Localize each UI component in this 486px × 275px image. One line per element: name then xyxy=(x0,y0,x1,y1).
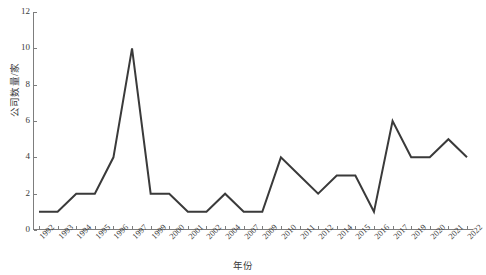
y-tick-label: 0 xyxy=(26,224,31,235)
y-tick-label: 12 xyxy=(21,6,30,17)
y-tick-label: 8 xyxy=(26,79,31,90)
y-tick-label: 6 xyxy=(26,115,31,126)
line-series-svg xyxy=(33,12,473,230)
x-axis-title: 年份 xyxy=(0,258,486,272)
y-tick-mark xyxy=(34,230,37,231)
y-tick-label: 4 xyxy=(26,151,31,162)
plot-area: 024681012 199219931994199519961997199920… xyxy=(33,12,473,230)
series-line-公司数量 xyxy=(39,48,467,212)
y-tick-label: 10 xyxy=(21,42,30,53)
chart-figure: 公司数量/家 024681012 19921993199419951996199… xyxy=(0,0,486,275)
y-tick-label: 2 xyxy=(26,188,31,199)
y-axis-title: 公司数量/家 xyxy=(7,34,21,146)
